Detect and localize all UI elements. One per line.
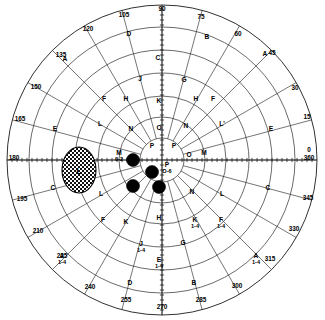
isopter-label-M-left: M: [116, 149, 122, 156]
isopter-label-J-ul: J: [138, 75, 142, 82]
degree-label-315: 315: [265, 255, 276, 262]
isopter-label-D-ul: D: [127, 30, 132, 37]
isopter-label-A-315: A: [254, 252, 259, 259]
degree-label-195: 195: [17, 195, 28, 202]
isopter-label-K-lr: K: [193, 216, 198, 223]
isopter-label-F-ur: F: [211, 95, 215, 102]
isopter-label-E-ul: E: [53, 125, 58, 132]
blind-spot-group: L: [62, 147, 96, 193]
isopter-label-L-ul: L: [98, 120, 102, 127]
degree-label-60: 60: [234, 30, 242, 37]
isopter-label-H-ul: H: [124, 95, 129, 102]
degree-label-255: 255: [121, 296, 132, 303]
degree-label-270: 270: [157, 303, 168, 310]
isopter-label-D-ll: D: [128, 279, 133, 286]
scotoma-point-2: [127, 180, 140, 193]
degree-label-120: 120: [83, 25, 94, 32]
isopter-sublabel-P-cr: O-6: [162, 168, 171, 174]
isopter-sublabel-A-315: 1-4: [252, 259, 261, 265]
isopter-label-E-ur: E: [269, 125, 274, 132]
isopter-label-B-lr: B: [192, 279, 197, 286]
visual-field-chart: L ABDAEFGHL'NPCJKOPHFLNECLFKJ1-4A1-4DHE1…: [0, 0, 325, 320]
isopter-label-K-90: K: [157, 97, 162, 104]
isopter-label-B-ur: B: [205, 33, 210, 40]
scotoma-point-1: [146, 166, 159, 179]
scotoma-point-0: [127, 154, 140, 167]
degree-label-240: 240: [85, 283, 96, 290]
isopter-label-H-270: H: [157, 214, 162, 221]
isopter-sublabel-J-ll: 1-4: [137, 247, 146, 253]
degree-label-150: 150: [31, 83, 42, 90]
isopter-label-N-lr: N: [190, 188, 195, 195]
isopter-label-P-cr: P: [165, 161, 170, 168]
isopter-label-F-lr: F: [219, 216, 223, 223]
scotoma-point-3: [153, 181, 166, 194]
isopter-label-J-ll: J: [139, 240, 143, 247]
degree-label-90: 90: [158, 5, 166, 12]
degree-label-300: 300: [232, 282, 243, 289]
isopter-label-L-lr: L: [220, 190, 224, 197]
degree-label-45: 45: [268, 49, 276, 56]
isopter-label-O-90: O: [156, 124, 161, 131]
isopter-label-F-ul: F: [102, 95, 106, 102]
degree-label-75: 75: [197, 13, 205, 20]
isopter-label-A-45: A: [263, 50, 268, 57]
isopter-label-C-lr: C: [266, 184, 271, 191]
isopter-label-H-ur: H: [194, 95, 199, 102]
isopter-label-E-270: E: [157, 256, 162, 263]
degree-label-345: 345: [303, 194, 314, 201]
degree-label-105: 105: [119, 11, 130, 18]
degree-label-180: 180: [9, 154, 20, 161]
degree-label-135: 135: [56, 51, 67, 58]
isopter-label-O-right: O: [186, 151, 191, 158]
isopter-label-N-ul: N: [129, 125, 134, 132]
isopter-label-M-right: M: [201, 149, 207, 156]
degree-label-330: 330: [289, 225, 300, 232]
isopter-label-P-ul: P: [150, 142, 155, 149]
isopter-label-P-ur: P: [172, 142, 177, 149]
isopter-sublabel-F-lr: 1-4: [217, 223, 226, 229]
degree-label-15: 15: [303, 113, 311, 120]
isopter-label-L-ur: L': [219, 120, 225, 127]
degree-label-285: 285: [196, 296, 207, 303]
isopter-label-F-ll: F: [101, 216, 105, 223]
blind-spot-label: L: [76, 166, 82, 176]
isopter-label-G-lr: G: [180, 239, 185, 246]
polar-plot-svg: L ABDAEFGHL'NPCJKOPHFLNECLFKJ1-4A1-4DHE1…: [0, 0, 325, 320]
isopter-label-G-ur: G: [181, 76, 186, 83]
isopter-label-C-ll: C: [51, 184, 56, 191]
degree-label-210: 210: [33, 227, 44, 234]
isopter-sublabel-A-225: 1-4: [58, 259, 67, 265]
isopter-sublabel-K-lr: 1-4: [191, 223, 200, 229]
degree-label-225: 225: [57, 252, 68, 259]
isopter-label-L-ll: L: [99, 190, 103, 197]
isopter-sublabel-E-270: 1-4: [155, 263, 164, 269]
degree-label-165: 165: [15, 115, 26, 122]
isopter-sublabel-M-left: 0-2: [115, 156, 123, 162]
isopter-label-N-ur: N: [184, 122, 189, 129]
isopter-label-C-90: C: [156, 54, 161, 61]
degree-label-360: 360: [304, 154, 315, 161]
degree-label-0: 0: [307, 146, 311, 153]
degree-label-30: 30: [291, 84, 299, 91]
isopter-label-K-ll: K: [124, 218, 129, 225]
